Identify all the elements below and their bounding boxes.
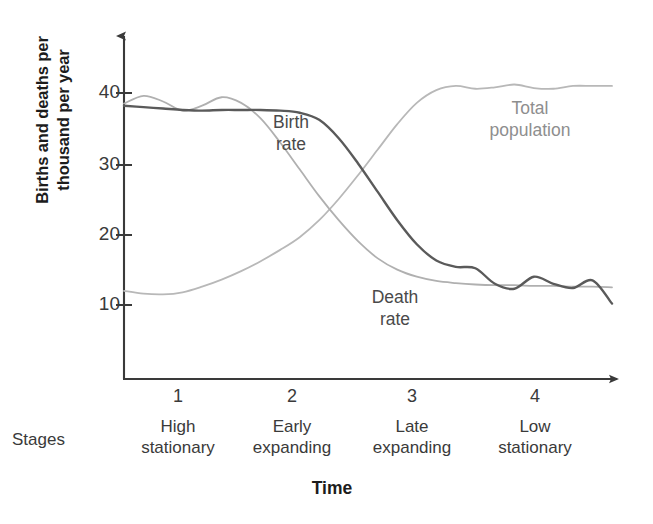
total-population-label: Total population — [466, 98, 594, 142]
stage-number-3: 3 — [382, 386, 442, 407]
birth-rate-label-line1: Birth — [248, 112, 334, 134]
stage-name-1-line1: High — [113, 416, 243, 437]
stage-number-4: 4 — [505, 386, 565, 407]
birth-rate-label: Birth rate — [248, 112, 334, 156]
x-axis-label: Time — [272, 478, 392, 499]
birth-rate-label-line2: rate — [248, 134, 334, 156]
stage-name-4-line1: Low — [470, 416, 600, 437]
stage-name-2: Early expanding — [227, 416, 357, 458]
stage-name-3-line1: Late — [347, 416, 477, 437]
death-rate-label-line1: Death — [352, 287, 438, 309]
stage-name-2-line1: Early — [227, 416, 357, 437]
chart-figure: Births and deaths per thousand per year … — [0, 0, 653, 524]
total-population-label-line2: population — [466, 120, 594, 142]
stage-name-3-line2: expanding — [347, 437, 477, 458]
stage-name-4-line2: stationary — [470, 437, 600, 458]
death-rate-label: Death rate — [352, 287, 438, 331]
stage-number-1: 1 — [148, 386, 208, 407]
total-population-label-line1: Total — [466, 98, 594, 120]
stage-name-1-line2: stationary — [113, 437, 243, 458]
stage-number-2: 2 — [262, 386, 322, 407]
death-rate-label-line2: rate — [352, 309, 438, 331]
stage-name-4: Low stationary — [470, 416, 600, 458]
stages-caption: Stages — [12, 430, 65, 450]
stage-name-3: Late expanding — [347, 416, 477, 458]
stage-name-2-line2: expanding — [227, 437, 357, 458]
stage-name-1: High stationary — [113, 416, 243, 458]
